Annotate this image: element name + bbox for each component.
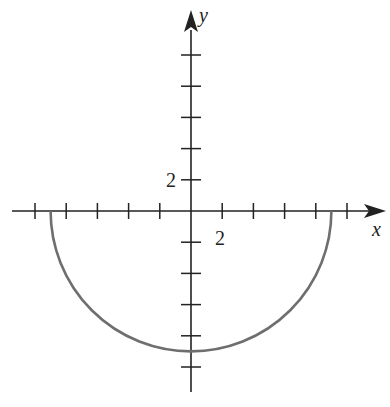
y-axis-label: y bbox=[197, 4, 208, 27]
axes bbox=[12, 10, 386, 392]
y-axis-arrow-icon bbox=[184, 10, 198, 32]
x-tick-label-2: 2 bbox=[215, 227, 225, 249]
x-axis-label: x bbox=[371, 218, 381, 240]
y-tick-label-2: 2 bbox=[166, 169, 176, 191]
semicircle-graph: x y 2 2 bbox=[0, 0, 390, 407]
